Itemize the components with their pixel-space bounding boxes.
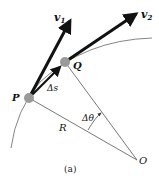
angle-label: Δθ <box>81 113 94 123</box>
point-P-label: P <box>11 92 20 103</box>
delta-s-label: Δs <box>46 83 58 93</box>
v2-label: v2 <box>141 8 152 22</box>
v1-label: v1 <box>54 11 65 25</box>
kinematics-diagram: v1 v2 Q P Δs R Δθ O (a) <box>0 0 159 181</box>
point-Q <box>60 57 70 67</box>
v2-arrow <box>65 14 136 62</box>
radius-label: R <box>58 122 67 133</box>
radius-line-P <box>29 98 137 160</box>
point-P <box>24 93 34 103</box>
point-Q-label: Q <box>73 60 82 71</box>
point-O-label: O <box>139 155 147 166</box>
radius-line-Q <box>65 62 137 160</box>
figure-caption: (a) <box>64 164 76 174</box>
